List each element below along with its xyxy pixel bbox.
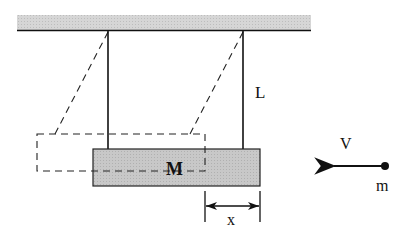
bullet <box>334 162 389 170</box>
ceiling <box>17 15 311 31</box>
ballistic-pendulum-diagram: M L V m x <box>0 0 413 238</box>
label-L: L <box>255 83 265 102</box>
label-m: m <box>376 177 389 194</box>
label-M: M <box>166 159 183 179</box>
label-x: x <box>227 211 235 228</box>
label-V: V <box>340 135 352 152</box>
bullet-dot <box>381 162 389 170</box>
strings <box>108 31 243 149</box>
swung-position-outline <box>55 32 243 134</box>
